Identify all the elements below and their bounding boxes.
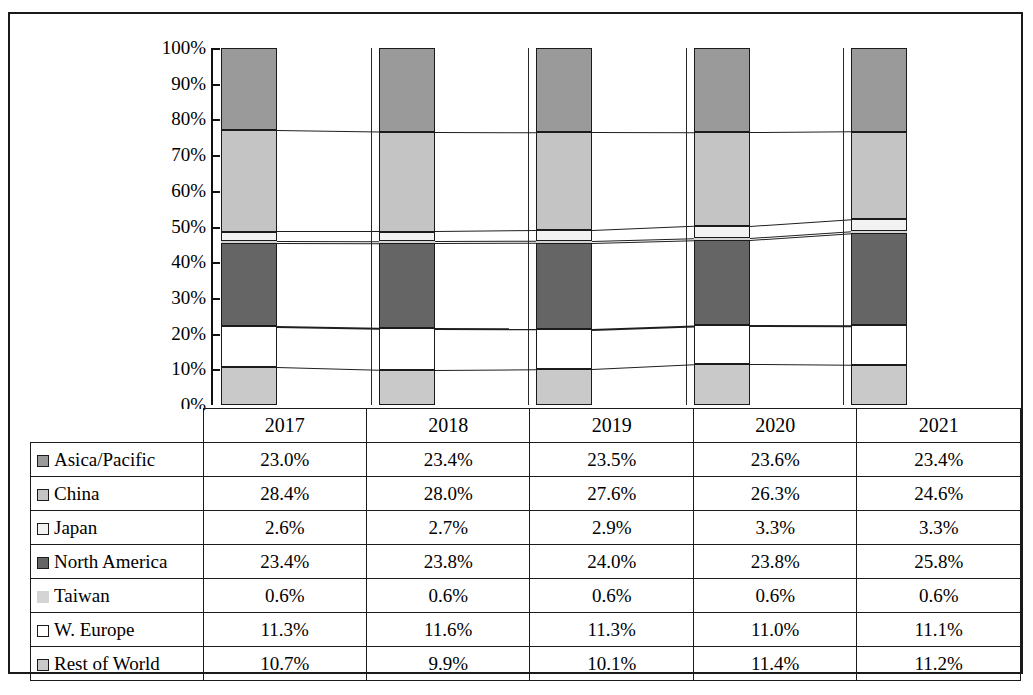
legend-swatch-icon bbox=[37, 659, 49, 671]
bar-segment bbox=[536, 132, 592, 231]
table-cell: 0.6% bbox=[530, 579, 693, 613]
table-cell: 23.4% bbox=[203, 545, 366, 579]
table-cell: 3.3% bbox=[857, 511, 1021, 545]
table-row: Rest of World10.7%9.9%10.1%11.4%11.2% bbox=[31, 647, 1021, 681]
table-row: North America23.4%23.8%24.0%23.8%25.8% bbox=[31, 545, 1021, 579]
series-connector-line bbox=[750, 219, 852, 227]
table-cell: 11.4% bbox=[693, 647, 856, 681]
category-separator-line bbox=[528, 48, 529, 405]
table-cell: 23.8% bbox=[693, 545, 856, 579]
bar-segment bbox=[694, 48, 750, 132]
bar-segment bbox=[694, 132, 750, 226]
plot-region: 0%10%20%30%40%50%60%70%80%90%100% bbox=[10, 14, 1023, 408]
bar-segment bbox=[379, 48, 435, 132]
table-column-header: 2020 bbox=[693, 409, 856, 443]
table-column-header: 2018 bbox=[367, 409, 530, 443]
series-connector-line bbox=[277, 130, 379, 132]
bar-segment bbox=[379, 132, 435, 232]
bar-segment bbox=[221, 48, 277, 130]
y-axis-tick-label: 100% bbox=[86, 38, 206, 57]
series-connector-line bbox=[435, 243, 537, 244]
stacked-bar-2019 bbox=[536, 48, 592, 405]
table-cell: 11.3% bbox=[530, 613, 693, 647]
series-connector-line bbox=[750, 364, 852, 366]
table-cell: 2.9% bbox=[530, 511, 693, 545]
table-cell: 11.6% bbox=[367, 613, 530, 647]
bar-segment bbox=[694, 325, 750, 364]
y-axis-tick-label: 60% bbox=[86, 181, 206, 200]
bar-segment bbox=[851, 48, 907, 132]
legend-entry-china: China bbox=[31, 477, 204, 511]
bar-segment bbox=[221, 367, 277, 405]
table-row: Japan2.6%2.7%2.9%3.3%3.3% bbox=[31, 511, 1021, 545]
series-connector-line bbox=[435, 328, 537, 330]
y-axis-tick-label: 30% bbox=[86, 288, 206, 307]
y-axis-tick-label: 50% bbox=[86, 217, 206, 236]
series-connector-line bbox=[592, 132, 694, 133]
table-row: Asica/Pacific23.0%23.4%23.5%23.6%23.4% bbox=[31, 443, 1021, 477]
bar-segment bbox=[379, 328, 435, 369]
y-axis-tick-label: 10% bbox=[86, 359, 206, 378]
chart-figure: 0%10%20%30%40%50%60%70%80%90%100% 201720… bbox=[8, 12, 1023, 674]
bar-segment bbox=[694, 240, 750, 325]
series-connector-line bbox=[592, 226, 694, 231]
bar-segment bbox=[379, 370, 435, 405]
y-axis-tick-label: 90% bbox=[86, 74, 206, 93]
series-connector-line bbox=[750, 132, 852, 134]
bar-segment bbox=[536, 230, 592, 240]
table-cell: 27.6% bbox=[530, 477, 693, 511]
table-cell: 11.0% bbox=[693, 613, 856, 647]
series-connector-line bbox=[592, 364, 694, 370]
table-cell: 2.6% bbox=[203, 511, 366, 545]
legend-entry-rest-of-world: Rest of World bbox=[31, 647, 204, 681]
table-cell: 10.7% bbox=[203, 647, 366, 681]
legend-label: China bbox=[54, 483, 99, 504]
plot-area bbox=[213, 48, 1001, 405]
legend-entry-asica-pacific: Asica/Pacific bbox=[31, 443, 204, 477]
table-cell: 23.0% bbox=[203, 443, 366, 477]
series-connector-line bbox=[435, 230, 537, 232]
bar-segment bbox=[851, 219, 907, 231]
table-header-row: 20172018201920202021 bbox=[31, 409, 1021, 443]
category-separator-line bbox=[843, 48, 844, 405]
series-connector-line bbox=[435, 369, 537, 371]
bar-segment bbox=[536, 369, 592, 405]
series-connector-line bbox=[750, 325, 852, 327]
table-cell: 23.4% bbox=[857, 443, 1021, 477]
table-cell: 23.5% bbox=[530, 443, 693, 477]
legend-label: Asica/Pacific bbox=[54, 449, 155, 470]
stacked-bar-2018 bbox=[379, 48, 435, 405]
table-cell: 24.0% bbox=[530, 545, 693, 579]
table-cell: 11.1% bbox=[857, 613, 1021, 647]
legend-label: Taiwan bbox=[54, 585, 110, 606]
table-row: W. Europe11.3%11.6%11.3%11.0%11.1% bbox=[31, 613, 1021, 647]
bar-segment bbox=[536, 48, 592, 132]
table-cell: 11.3% bbox=[203, 613, 366, 647]
table-cell: 2.7% bbox=[367, 511, 530, 545]
table-cell: 23.6% bbox=[693, 443, 856, 477]
table-cell: 9.9% bbox=[367, 647, 530, 681]
table-row: Taiwan0.6%0.6%0.6%0.6%0.6% bbox=[31, 579, 1021, 613]
legend-entry-w-europe: W. Europe bbox=[31, 613, 204, 647]
bar-segment bbox=[536, 329, 592, 369]
table-cell: 25.8% bbox=[857, 545, 1021, 579]
legend-label: North America bbox=[54, 551, 167, 572]
table-cell: 23.4% bbox=[367, 443, 530, 477]
series-connector-line bbox=[277, 241, 379, 242]
stacked-bar-2017 bbox=[221, 48, 277, 405]
legend-entry-north-america: North America bbox=[31, 545, 204, 579]
series-connector-line bbox=[277, 326, 379, 330]
y-axis-tick-label: 20% bbox=[86, 324, 206, 343]
data-table: 20172018201920202021Asica/Pacific23.0%23… bbox=[10, 408, 1021, 681]
table-column-header: 2019 bbox=[530, 409, 693, 443]
stacked-bar-2020 bbox=[694, 48, 750, 405]
legend-label: Rest of World bbox=[54, 653, 160, 674]
bar-segment bbox=[379, 232, 435, 242]
legend-swatch-icon bbox=[37, 591, 49, 603]
bar-segment bbox=[379, 243, 435, 328]
table-cell: 0.6% bbox=[367, 579, 530, 613]
series-connector-line bbox=[277, 243, 379, 244]
bar-segment bbox=[221, 243, 277, 327]
series-connector-line bbox=[277, 367, 379, 371]
legend-label: W. Europe bbox=[54, 619, 135, 640]
